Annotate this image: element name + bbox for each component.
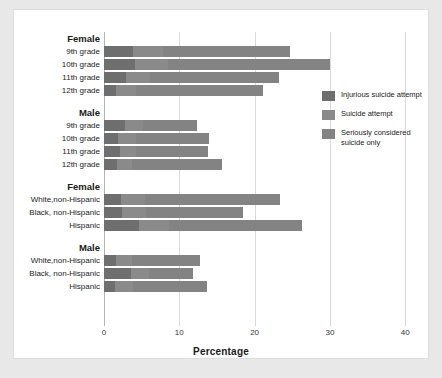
bar-row-label: 10th grade xyxy=(14,132,100,145)
bar-segment-2 xyxy=(136,85,263,96)
bar-segment-1 xyxy=(115,281,132,292)
stacked-bar xyxy=(104,255,200,266)
stacked-bar xyxy=(104,72,279,83)
bar-row-label: 11th grade xyxy=(14,145,100,158)
chart-legend: Injurious suicide attemptSuicide attempt… xyxy=(322,90,426,154)
group-header-label: Male xyxy=(14,241,100,254)
bar-segment-2 xyxy=(168,59,330,70)
bar-segment-0 xyxy=(104,120,125,131)
stacked-bar xyxy=(104,268,193,279)
bar-row-label: 12th grade xyxy=(14,84,100,97)
bar-row-label: 11th grade xyxy=(14,71,100,84)
bar-row-label: Black, non-Hispanic xyxy=(14,206,100,219)
legend-item: Seriously considered suicide only xyxy=(322,128,426,147)
bar-segment-1 xyxy=(131,268,149,279)
stacked-bar xyxy=(104,146,208,157)
stacked-bar xyxy=(104,46,290,57)
bar-row-label: Hispanic xyxy=(14,219,100,232)
x-axis-title: Percentage xyxy=(14,346,428,357)
bar-segment-0 xyxy=(104,194,121,205)
bar-segment-2 xyxy=(136,133,209,144)
bar-segment-2 xyxy=(145,194,281,205)
bar-segment-1 xyxy=(118,133,135,144)
legend-swatch xyxy=(322,91,335,101)
bar-segment-0 xyxy=(104,133,118,144)
bar-segment-1 xyxy=(125,120,143,131)
bar-segment-1 xyxy=(139,220,169,231)
bar-segment-1 xyxy=(126,72,150,83)
bar-segment-0 xyxy=(104,85,116,96)
bar-segment-1 xyxy=(120,146,137,157)
bar-segment-2 xyxy=(163,46,290,57)
bar-segment-2 xyxy=(146,207,243,218)
legend-item: Suicide attempt xyxy=(322,109,426,121)
bar-segment-0 xyxy=(104,220,139,231)
bar-segment-1 xyxy=(135,59,168,70)
bar-segment-1 xyxy=(121,194,144,205)
bar-segment-2 xyxy=(169,220,302,231)
bar-segment-1 xyxy=(133,46,163,57)
plot-area: Female9th grade10th grade11th grade12th … xyxy=(14,10,428,358)
legend-label: Suicide attempt xyxy=(341,109,426,119)
stacked-bar xyxy=(104,120,197,131)
bar-segment-0 xyxy=(104,159,117,170)
x-tick-label-30: 30 xyxy=(325,328,334,337)
bar-segment-2 xyxy=(149,268,193,279)
bar-row-label: 9th grade xyxy=(14,119,100,132)
legend-label: Injurious suicide attempt xyxy=(341,90,426,100)
stacked-bar xyxy=(104,281,207,292)
bar-segment-0 xyxy=(104,255,116,266)
bar-segment-2 xyxy=(150,72,279,83)
stacked-bar xyxy=(104,59,330,70)
bar-segment-2 xyxy=(143,120,197,131)
bar-row-label: White,non-Hispanic xyxy=(14,254,100,267)
bar-segment-2 xyxy=(133,281,208,292)
stacked-bar xyxy=(104,85,263,96)
bar-row-label: 10th grade xyxy=(14,58,100,71)
bar-segment-1 xyxy=(117,159,132,170)
stacked-bar xyxy=(104,220,302,231)
bar-row-label: Black, non-Hispanic xyxy=(14,267,100,280)
group-header-label: Female xyxy=(14,180,100,193)
bar-segment-0 xyxy=(104,207,122,218)
group-header-label: Male xyxy=(14,106,100,119)
bar-segment-2 xyxy=(132,255,200,266)
gridline-40 xyxy=(405,32,406,326)
bar-row-label: 12th grade xyxy=(14,158,100,171)
legend-swatch xyxy=(322,129,335,139)
bar-segment-0 xyxy=(104,146,120,157)
stacked-bar xyxy=(104,194,280,205)
bar-segment-0 xyxy=(104,46,133,57)
legend-label: Seriously considered suicide only xyxy=(341,128,426,147)
chart-panel: Female9th grade10th grade11th grade12th … xyxy=(14,10,428,358)
legend-item: Injurious suicide attempt xyxy=(322,90,426,102)
x-tick-label-20: 20 xyxy=(250,328,259,337)
bar-segment-1 xyxy=(116,85,136,96)
bar-row-label: White,non-Hispanic xyxy=(14,193,100,206)
bar-segment-0 xyxy=(104,268,131,279)
x-tick-label-10: 10 xyxy=(175,328,184,337)
bar-segment-0 xyxy=(104,72,126,83)
bar-segment-0 xyxy=(104,59,135,70)
bar-segment-2 xyxy=(136,146,208,157)
stacked-bar xyxy=(104,207,243,218)
bar-segment-0 xyxy=(104,281,115,292)
gridline-30 xyxy=(330,32,331,326)
group-header-label: Female xyxy=(14,32,100,45)
bar-segment-1 xyxy=(122,207,146,218)
bar-segment-2 xyxy=(132,159,222,170)
bar-segment-1 xyxy=(116,255,132,266)
bar-row-label: Hispanic xyxy=(14,280,100,293)
bar-row-label: 9th grade xyxy=(14,45,100,58)
legend-swatch xyxy=(322,110,335,120)
figure: Female9th grade10th grade11th grade12th … xyxy=(0,0,442,378)
stacked-bar xyxy=(104,159,222,170)
x-tick-label-0: 0 xyxy=(102,328,106,337)
x-tick-label-40: 40 xyxy=(401,328,410,337)
stacked-bar xyxy=(104,133,209,144)
